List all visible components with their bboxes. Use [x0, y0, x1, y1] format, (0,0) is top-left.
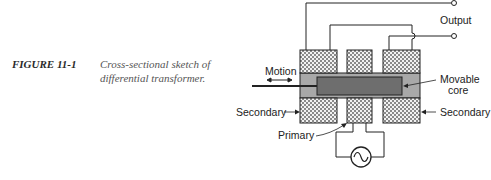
movable-core	[317, 77, 402, 95]
secondary-left-arrow-icon	[295, 110, 300, 115]
secondary-left-label: Secondary	[236, 106, 287, 118]
secondary-right-label: Secondary	[440, 106, 491, 118]
motion-label: Motion	[265, 65, 297, 77]
motion-double-arrow-icon	[267, 78, 292, 82]
right-secondary-coil-bottom	[383, 98, 420, 123]
primary-coil-bottom	[347, 98, 372, 123]
output-terminal-top	[452, 1, 457, 6]
output-label: Output	[440, 14, 472, 26]
output-wiring	[306, 3, 451, 50]
left-secondary-coil-top	[300, 50, 337, 73]
primary-label: Primary	[278, 129, 315, 141]
primary-coil-top	[347, 50, 372, 73]
differential-transformer-diagram: Output Motion Movable core Secondary Sec…	[0, 0, 491, 180]
left-secondary-coil-bottom	[300, 98, 337, 123]
output-terminal-bottom	[452, 34, 457, 39]
secondary-right-arrow-icon	[421, 110, 426, 115]
movable-core-label-line2: core	[448, 84, 469, 96]
right-secondary-coil-top	[383, 50, 420, 73]
primary-arrow-icon	[341, 123, 347, 128]
